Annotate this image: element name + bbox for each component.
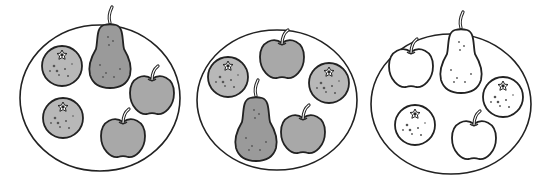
orange bbox=[43, 98, 83, 138]
orange bbox=[208, 57, 248, 97]
pear bbox=[89, 7, 131, 88]
plate-3 bbox=[371, 12, 531, 174]
orange bbox=[309, 63, 349, 103]
orange bbox=[483, 77, 523, 117]
pear bbox=[440, 12, 482, 93]
orange bbox=[42, 46, 82, 86]
plate-2 bbox=[197, 30, 357, 170]
orange bbox=[395, 105, 435, 145]
plate-1 bbox=[20, 7, 180, 171]
fruit-plates-illustration bbox=[0, 0, 553, 188]
